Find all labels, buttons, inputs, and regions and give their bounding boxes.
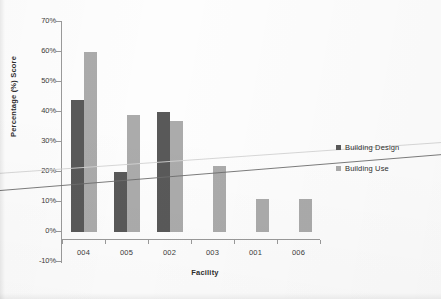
x-tick-mark	[234, 240, 235, 244]
y-tick-label: 10%	[0, 196, 62, 207]
y-axis-title: Percentage (%) Score	[9, 22, 18, 172]
x-tick-mark	[62, 240, 63, 244]
x-tick-mark	[277, 240, 278, 244]
legend-swatch-icon	[336, 166, 341, 171]
legend-label: Building Use	[345, 164, 389, 173]
bar-building-use-002	[170, 121, 183, 232]
bar-building-use-006	[299, 199, 312, 232]
scan-edge-left	[0, 0, 5, 299]
chart-legend: Building DesignBuilding Use	[336, 141, 438, 183]
legend-label: Building Design	[345, 143, 399, 152]
y-axis-line	[61, 21, 62, 263]
x-tick-mark	[105, 240, 106, 244]
x-tick-mark	[191, 240, 192, 244]
bar-building-design-004	[71, 100, 84, 232]
x-tick-mark	[148, 240, 149, 244]
bar-building-use-004	[84, 52, 97, 232]
bar-building-use-005	[127, 115, 140, 232]
y-tick-label: -10%	[0, 256, 62, 267]
bar-building-use-001	[256, 199, 269, 232]
chart-screenshot: 70%60%50%40%30%20%10%0%-10% 004005002003…	[0, 0, 441, 299]
bar-building-design-005	[114, 172, 127, 232]
plot-area	[62, 22, 320, 262]
x-axis-title: Facility	[150, 268, 260, 277]
x-tick-mark	[320, 240, 321, 244]
legend-swatch-icon	[336, 145, 341, 150]
bar-building-design-002	[157, 112, 170, 232]
scan-edge-bottom	[0, 293, 441, 299]
bar-building-use-003	[213, 166, 226, 232]
y-tick-label: 0%	[0, 226, 62, 237]
legend-item[interactable]: Building Design	[336, 141, 438, 154]
legend-item[interactable]: Building Use	[336, 162, 438, 175]
